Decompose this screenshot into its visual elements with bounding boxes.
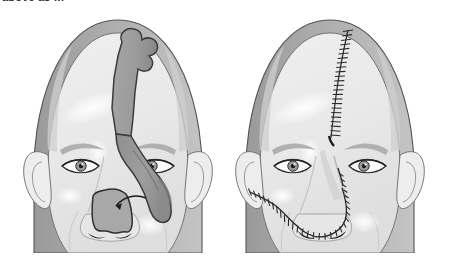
nasal-tip-defect[interactable]: [92, 189, 132, 233]
figure-canvas: [0, 0, 450, 264]
cheek-highlight-left: [57, 187, 83, 205]
caption-text: above as in: [2, 0, 64, 3]
caption-strip: above as in: [0, 0, 450, 7]
cheek-highlight-right: [348, 211, 380, 233]
